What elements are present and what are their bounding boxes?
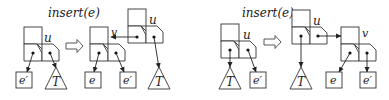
- right-after-node-u: u: [292, 10, 341, 67]
- svg-text:e: e: [330, 74, 337, 87]
- leaf-box: e′: [250, 72, 266, 88]
- node-label-u: u: [313, 14, 321, 28]
- hollow-right-arrow-icon: [264, 36, 281, 49]
- right-operation-label: insert(e): [242, 6, 294, 20]
- svg-text:e: e: [89, 74, 96, 87]
- svg-text:e′: e′: [253, 74, 263, 87]
- subtree-triangle: T: [148, 67, 170, 89]
- svg-text:T: T: [155, 75, 164, 89]
- svg-text:T: T: [52, 75, 61, 89]
- leaf-box: e′: [360, 72, 376, 88]
- svg-text:T: T: [297, 75, 306, 89]
- leaf-box: e: [85, 72, 101, 88]
- node-label-u: u: [149, 13, 157, 27]
- node-label-v: v: [362, 27, 369, 40]
- hollow-right-arrow-icon: [66, 40, 83, 53]
- left-before-node-u: u: [24, 27, 59, 72]
- left-panel: insert(e) u e′ T v: [16, 6, 170, 89]
- leaf-box: e: [326, 72, 342, 88]
- right-after-node-v: v: [339, 27, 376, 72]
- right-panel: insert(e) u T e′ u: [219, 6, 376, 89]
- subtree-triangle: T: [219, 67, 241, 89]
- left-after-node-v: v: [90, 26, 125, 72]
- node-label-u: u: [243, 28, 251, 42]
- subtree-triangle: T: [290, 67, 312, 89]
- subtree-triangle: T: [45, 67, 67, 89]
- svg-text:e′: e′: [19, 74, 29, 87]
- svg-text:T: T: [226, 75, 235, 89]
- right-before-node-u: u: [221, 24, 256, 72]
- left-operation-label: insert(e): [48, 6, 100, 20]
- leaf-box: e′: [120, 72, 136, 88]
- insert-operation-diagram: insert(e) u e′ T v: [0, 0, 389, 100]
- node-label-u: u: [44, 31, 52, 45]
- svg-text:e′: e′: [123, 74, 133, 87]
- leaf-box: e′: [16, 72, 32, 88]
- svg-text:e′: e′: [363, 74, 373, 87]
